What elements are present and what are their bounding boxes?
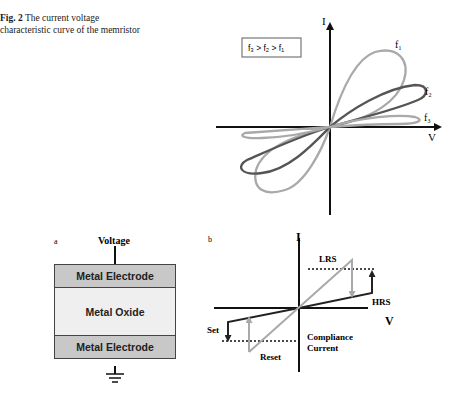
y-axis-label: I [322, 15, 326, 27]
compliance-label: Compliance [307, 332, 353, 342]
memristor-stack: Metal Electrode Metal Oxide Metal Electr… [54, 264, 176, 359]
switching-chart [214, 238, 376, 372]
panel-a-label: a [54, 237, 58, 246]
hrs-label: HRS [372, 297, 391, 307]
label-f2: f₂ [425, 86, 432, 97]
panel-b-label: b [208, 235, 212, 244]
legend-text: f₃ > f₂ > f₁ [248, 43, 284, 53]
x-axis-label: V [428, 131, 436, 143]
current-label: Current [307, 343, 338, 353]
top-electrode-layer: Metal Electrode [54, 264, 176, 288]
set-label: Set [207, 325, 219, 335]
metal-oxide-layer: Metal Oxide [54, 288, 176, 335]
voltage-label: Voltage [98, 235, 130, 246]
b-x-label: V [385, 314, 394, 328]
reset-label: Reset [260, 352, 281, 362]
b-y-label: I [296, 230, 301, 244]
label-f3: f₃ [424, 112, 431, 123]
bottom-electrode-layer: Metal Electrode [54, 335, 176, 359]
label-f1: f₁ [395, 39, 402, 50]
lrs-label: LRS [319, 254, 337, 264]
curve-f2 [241, 85, 426, 174]
